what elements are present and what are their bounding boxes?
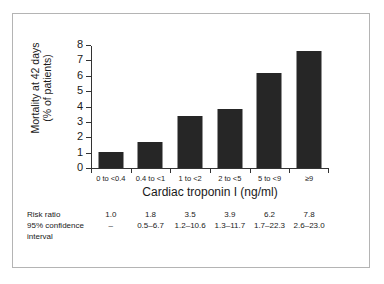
x-axis-tick-label: 0 to <0.4 (96, 174, 125, 183)
stats-row: Risk ratio1.01.83.53.96.27.8 (27, 209, 357, 220)
x-axis-tick (250, 169, 251, 173)
y-axis-title-line-1: Mortality at 42 days (29, 26, 41, 150)
stats-row-label: 95% confidence (27, 220, 84, 231)
statistics-table: Risk ratio1.01.83.53.96.27.895% confiden… (27, 209, 357, 242)
stats-cell: 0.5–6.7 (137, 220, 164, 231)
y-axis-tick-label: 3 (77, 115, 83, 128)
x-axis-tick (289, 169, 290, 173)
bar[interactable] (257, 73, 282, 168)
stats-cell: 3.5 (185, 209, 196, 220)
bar[interactable] (98, 152, 123, 168)
bar-slot (250, 45, 290, 168)
bar[interactable] (138, 142, 163, 168)
bar-slot (131, 45, 171, 168)
y-axis-tick-label: 7 (77, 53, 83, 66)
x-axis-tick (170, 169, 171, 173)
bar-slot (289, 45, 329, 168)
stats-cell: 2.6–23.0 (294, 220, 325, 231)
stats-row-label-line-2: interval (27, 231, 53, 242)
stats-cell: 7.8 (304, 209, 315, 220)
stats-cell: 1.3–11.7 (215, 220, 246, 231)
bar[interactable] (178, 116, 203, 168)
y-axis-tick-label: 8 (77, 38, 83, 51)
x-axis-title: Cardiac troponin I (ng/ml) (91, 185, 329, 200)
x-axis-tick-label: 1 to <2 (179, 174, 202, 183)
stats-cell: – (109, 220, 113, 231)
x-axis-tick (131, 169, 132, 173)
stats-cell: 1.7–22.3 (254, 220, 285, 231)
x-axis-tick-label: 0.4 to <1 (136, 174, 165, 183)
bar[interactable] (297, 51, 322, 168)
stats-cell: 1.0 (105, 209, 116, 220)
stats-row: 95% confidence–0.5–6.71.2–10.61.3–11.71.… (27, 220, 357, 231)
x-axis-tick-label: 2 to <5 (218, 174, 241, 183)
plot-area: 012345678 (91, 46, 329, 169)
figure-frame: Mortality at 42 days (% of patients) 012… (12, 13, 370, 268)
stats-row-continuation: interval (27, 231, 357, 242)
x-axis-tick-label: 5 to <9 (258, 174, 281, 183)
stats-row-label: Risk ratio (27, 209, 60, 220)
x-axis-tick-label: ≥9 (305, 174, 313, 183)
stats-cell: 1.2–10.6 (175, 220, 206, 231)
x-axis-tick (210, 169, 211, 173)
y-axis-title: Mortality at 42 days (% of patients) (29, 26, 53, 150)
bar-slot (210, 45, 250, 168)
y-axis-title-line-2: (% of patients) (41, 26, 53, 150)
stats-cell: 1.8 (145, 209, 156, 220)
bar-slot (170, 45, 210, 168)
bar-slot (91, 45, 131, 168)
stats-cell: 3.9 (224, 209, 235, 220)
stats-cell: 6.2 (264, 209, 275, 220)
x-axis-tick (91, 169, 92, 173)
y-axis-tick-label: 6 (77, 69, 83, 82)
bars-layer (91, 45, 329, 168)
x-axis-tick (328, 169, 329, 173)
y-axis-tick-label: 1 (77, 146, 83, 159)
y-axis-tick-label: 2 (77, 130, 83, 143)
bar[interactable] (217, 109, 242, 168)
bar-chart: Mortality at 42 days (% of patients) 012… (13, 14, 371, 204)
y-axis-tick-label: 5 (77, 84, 83, 97)
y-axis-tick-label: 0 (77, 161, 83, 174)
y-axis-tick-label: 4 (77, 100, 83, 113)
